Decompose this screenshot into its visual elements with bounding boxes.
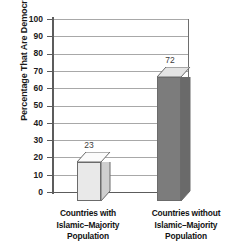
category-label-line: Population [133,231,239,243]
y-tick-label: 0 [17,188,43,197]
y-tick-label: 50 [17,101,43,110]
bar-countries-with-islamic-majority[interactable] [77,152,101,201]
bar-side-face [101,162,112,212]
y-tick-label: 10 [17,171,43,180]
y-tick-label: 40 [17,119,43,128]
x-axis-category-label-0: Countries with Islamic–Majority Populati… [35,208,141,243]
bar-chart: Percentage That Are Democratic 100 90 80… [0,0,244,252]
category-label-line: Countries without [133,208,239,220]
gridline [53,19,189,20]
bar-front-face [77,162,101,201]
y-tick-label: 70 [17,67,43,76]
bar-side-face [181,77,192,212]
y-tick-label: 20 [17,153,43,162]
y-tick-label: 90 [17,32,43,41]
bar-value-label: 23 [74,140,104,150]
bar-front-face [157,77,181,201]
gridline [53,36,189,37]
y-tick-label: 100 [17,15,43,24]
bar-value-label: 72 [155,55,185,65]
category-label-line: Population [35,231,141,243]
y-tick-label: 30 [17,136,43,145]
bar-countries-without-islamic-majority[interactable] [157,67,181,201]
y-axis-line [52,17,54,194]
y-tick-label: 60 [17,84,43,93]
category-label-line: Countries with [35,208,141,220]
y-tick-label: 80 [17,49,43,58]
category-label-line: Islamic–Majority [35,220,141,232]
x-axis-category-label-1: Countries without Islamic–Majority Popul… [133,208,239,243]
category-label-line: Islamic–Majority [133,220,239,232]
